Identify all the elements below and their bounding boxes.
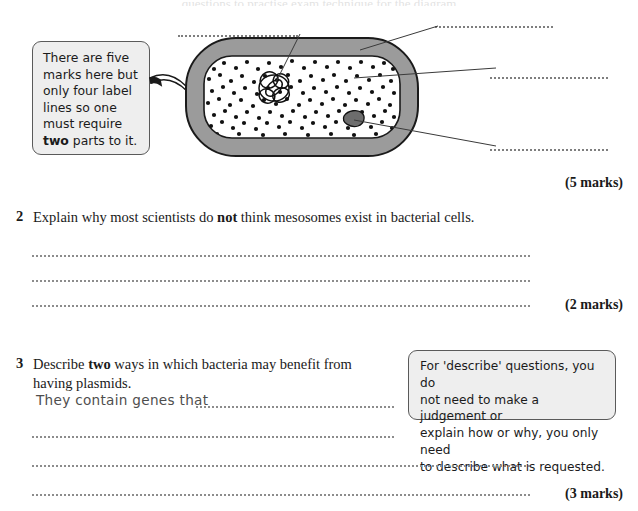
question-stem-2-part2: think mesosomes exist in bacterial cells… bbox=[237, 209, 474, 225]
label-line-bottom-right[interactable] bbox=[490, 147, 608, 151]
tip-line-2: marks here but bbox=[43, 67, 140, 84]
exam-page: questions to practise exam technique for… bbox=[0, 0, 638, 511]
tip-box-label-lines: There are five marks here but only four … bbox=[32, 41, 150, 155]
marks-q1: (5 marks) bbox=[518, 175, 623, 191]
marks-q3: (3 marks) bbox=[518, 486, 623, 502]
plasmid-icon bbox=[343, 111, 364, 127]
question-stem-3-part2: ways in which bacteria may benefit from bbox=[111, 356, 352, 372]
answer-line-q3-2[interactable] bbox=[32, 434, 394, 438]
tip-line-6: two parts to it. bbox=[43, 133, 140, 150]
tip-line-4: lines so one bbox=[43, 100, 140, 117]
tip-line-3: only four label bbox=[43, 83, 140, 100]
question-stem-3-bold: two bbox=[88, 356, 111, 372]
tip-line-1: There are five bbox=[43, 50, 140, 67]
bacterial-cell-diagram bbox=[148, 6, 500, 178]
describe-tip-line-4: to describe what is requested. bbox=[420, 459, 605, 476]
answer-line-q3-3[interactable] bbox=[32, 463, 530, 467]
marks-q2: (2 marks) bbox=[518, 297, 623, 313]
answer-line-q3-4[interactable] bbox=[32, 492, 530, 496]
answer-line-q2-1[interactable] bbox=[32, 253, 530, 257]
question-stem-2-part1: Explain why most scientists do bbox=[33, 209, 217, 225]
answer-line-q2-2[interactable] bbox=[32, 278, 530, 282]
tip-box-describe: For 'describe' questions, you do not nee… bbox=[408, 350, 616, 420]
describe-tip-line-1: For 'describe' questions, you do bbox=[420, 358, 605, 392]
describe-tip-line-2: not need to make a judgement or bbox=[420, 392, 605, 426]
describe-tip-line-3: explain how or why, you only need bbox=[420, 425, 605, 459]
tip-line-6-rest: parts to it. bbox=[69, 133, 137, 148]
question-number-2: 2 bbox=[16, 208, 23, 225]
sample-answer-handwriting: They contain genes that bbox=[36, 392, 208, 408]
question-stem-2-bold: not bbox=[217, 209, 237, 225]
label-line-middle-right[interactable] bbox=[490, 75, 608, 79]
question-number-3: 3 bbox=[16, 355, 23, 372]
question-stem-2: Explain why most scientists do not think… bbox=[33, 208, 593, 227]
answer-line-q3-1[interactable] bbox=[196, 404, 394, 408]
answer-line-q2-3[interactable] bbox=[32, 303, 530, 307]
tip-line-5: must require bbox=[43, 116, 140, 133]
question-stem-3-line2: having plasmids. bbox=[33, 375, 131, 391]
question-stem-3-part1: Describe bbox=[33, 356, 88, 372]
tip-line-6-bold: two bbox=[43, 133, 69, 148]
question-stem-3: Describe two ways in which bacteria may … bbox=[33, 355, 393, 393]
